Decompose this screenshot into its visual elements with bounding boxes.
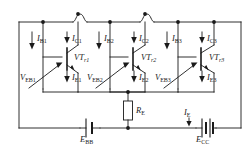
emitter-arrowhead-3	[204, 65, 209, 71]
junction-dot-base2	[108, 20, 112, 24]
label-veb1: VEB1	[20, 73, 36, 82]
arrow-ic2-head	[131, 37, 137, 44]
label-vt1: VTr1	[74, 53, 89, 62]
label-vt2: VTr2	[141, 53, 156, 62]
arrow-ic3-head	[199, 37, 205, 44]
label-ebb: EBB	[80, 135, 93, 144]
emitter-arrowhead-1	[70, 65, 74, 71]
junction-dot-collector3	[212, 20, 216, 24]
arrow-ie-total-head	[186, 121, 191, 127]
label-ib3: IB3	[172, 34, 182, 43]
arrow-ib3-head	[164, 43, 170, 50]
resistor-body	[124, 101, 133, 120]
junction-dot-base1	[41, 20, 45, 24]
wire-hop-2	[140, 14, 154, 22]
wire-hop-1	[73, 14, 87, 22]
veb1-pointer-head	[56, 63, 63, 69]
arrow-ib2-head	[96, 43, 102, 50]
arrow-ib1-head	[29, 43, 35, 50]
arrow-ie2-head	[131, 76, 137, 83]
label-ic1: IC1	[72, 34, 82, 43]
label-ic3: IC3	[207, 34, 217, 43]
label-ecc: ECC	[196, 135, 209, 144]
junction-dot-collector1	[76, 12, 80, 16]
veb3-pointer-head	[191, 63, 198, 69]
circuit-diagram-canvas: IB1 IB2 IB3 IC1 IC2 IC3 IE1 IE2 IE3 VTr1…	[0, 0, 251, 147]
label-ib2: IB2	[104, 34, 114, 43]
label-ie1: IE1	[72, 73, 82, 82]
label-veb2: VEB2	[87, 73, 103, 82]
junction-dot-resistor-top	[126, 90, 130, 94]
veb2-pointer-head	[123, 63, 130, 69]
arrow-ic1-head	[64, 37, 70, 44]
junction-dot-resistor-bottom	[126, 126, 130, 130]
emitter-arrowhead-2	[136, 65, 141, 71]
label-ib1: IB1	[37, 34, 47, 43]
label-re: RE	[136, 106, 145, 115]
label-ie3: IE3	[207, 73, 217, 82]
arrow-ie3-head	[199, 76, 205, 83]
arrow-ie1-head	[64, 76, 70, 83]
junction-dot-base3	[176, 20, 180, 24]
label-veb3: VEB3	[155, 73, 171, 82]
label-ic2: IC2	[139, 34, 149, 43]
label-vt3: VTr3	[209, 53, 224, 62]
label-ie-total: IE	[184, 108, 191, 117]
junction-dot-collector2	[143, 12, 147, 16]
label-ie2: IE2	[139, 73, 149, 82]
